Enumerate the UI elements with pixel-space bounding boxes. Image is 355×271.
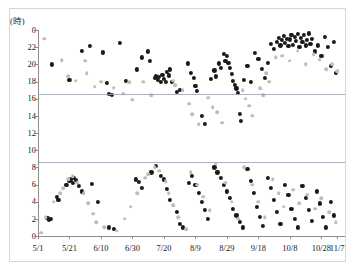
data-point bbox=[181, 88, 185, 92]
data-point bbox=[187, 102, 191, 106]
data-point bbox=[220, 121, 224, 125]
data-point bbox=[250, 183, 254, 187]
data-point bbox=[294, 39, 298, 43]
data-point bbox=[192, 76, 196, 80]
data-point bbox=[66, 75, 70, 79]
x-axis-tick-mark bbox=[195, 236, 196, 239]
x-axis-tick-mark bbox=[69, 236, 70, 239]
data-point bbox=[115, 229, 119, 233]
data-point bbox=[296, 225, 300, 229]
y-axis-tick-label: 10 bbox=[12, 146, 36, 155]
data-point bbox=[66, 178, 70, 182]
data-point bbox=[176, 215, 180, 219]
x-axis-tick-mark bbox=[101, 236, 102, 239]
data-point bbox=[167, 191, 171, 195]
data-point bbox=[118, 41, 122, 45]
x-axis-tick-mark bbox=[321, 236, 322, 239]
data-point bbox=[257, 200, 261, 204]
data-point bbox=[324, 68, 328, 72]
data-point bbox=[219, 176, 223, 180]
data-point bbox=[142, 80, 146, 84]
x-axis-tick-mark bbox=[290, 236, 291, 239]
x-axis-tick-label: 10/28 bbox=[312, 243, 331, 253]
x-axis-tick-mark bbox=[258, 236, 259, 239]
data-point bbox=[307, 208, 311, 212]
data-point bbox=[244, 97, 248, 101]
data-point bbox=[49, 217, 53, 221]
data-point bbox=[165, 187, 169, 191]
data-point bbox=[88, 44, 92, 48]
data-point bbox=[173, 83, 177, 87]
data-point bbox=[305, 193, 309, 197]
x-axis-tick-label: 11/7 bbox=[330, 243, 345, 253]
data-point bbox=[259, 67, 263, 71]
data-point bbox=[278, 222, 282, 226]
chart-figure: (時) 02220181614121086420 5/15/216/106/30… bbox=[0, 0, 355, 271]
y-axis-tick-mark bbox=[34, 133, 38, 134]
data-point bbox=[214, 74, 218, 78]
x-axis-tick-label: 6/10 bbox=[93, 243, 108, 253]
data-point bbox=[225, 189, 229, 193]
data-point bbox=[291, 42, 295, 46]
data-point bbox=[146, 49, 150, 53]
data-point bbox=[60, 58, 64, 62]
data-point bbox=[242, 166, 246, 170]
data-point bbox=[335, 69, 339, 73]
data-point bbox=[131, 98, 135, 102]
y-axis-tick-label: 18 bbox=[12, 77, 36, 86]
x-axis-tick-label: 7/20 bbox=[156, 243, 171, 253]
data-point bbox=[153, 166, 157, 170]
data-point bbox=[168, 198, 172, 202]
data-point bbox=[164, 179, 168, 183]
data-point bbox=[129, 205, 133, 209]
data-point bbox=[206, 96, 210, 100]
data-point bbox=[224, 181, 228, 185]
data-point bbox=[322, 35, 326, 39]
data-point bbox=[74, 79, 78, 83]
x-axis-tick-label: 6/30 bbox=[125, 243, 140, 253]
data-point bbox=[184, 227, 188, 231]
plot-area bbox=[38, 32, 345, 235]
data-point bbox=[236, 217, 240, 221]
data-point bbox=[327, 210, 331, 214]
data-point bbox=[209, 77, 213, 81]
x-axis-tick-label: 8/29 bbox=[219, 243, 234, 253]
data-point bbox=[195, 89, 199, 93]
data-point bbox=[321, 215, 325, 219]
data-point bbox=[293, 217, 297, 221]
data-point bbox=[296, 49, 300, 53]
data-point bbox=[137, 180, 141, 184]
data-point bbox=[112, 86, 116, 90]
y-axis-tick-label: 0 bbox=[12, 26, 36, 35]
data-point bbox=[247, 104, 251, 108]
data-point bbox=[212, 68, 216, 72]
data-point bbox=[286, 44, 290, 48]
data-point bbox=[226, 61, 230, 65]
data-point bbox=[189, 171, 193, 175]
data-point bbox=[239, 119, 243, 123]
data-point bbox=[140, 186, 144, 190]
y-axis-tick-label: 8 bbox=[12, 163, 36, 172]
data-point bbox=[332, 213, 336, 217]
data-point bbox=[252, 191, 256, 195]
y-axis-tick-label: 12 bbox=[12, 129, 36, 138]
data-point bbox=[264, 71, 268, 75]
x-axis-tick-mark bbox=[132, 236, 133, 239]
data-point bbox=[135, 191, 139, 195]
y-axis-tick-mark bbox=[34, 116, 38, 117]
y-axis-tick-label: 6 bbox=[12, 180, 36, 189]
data-point bbox=[91, 212, 95, 216]
reference-line bbox=[38, 162, 345, 163]
data-point bbox=[261, 224, 265, 228]
data-point bbox=[253, 51, 257, 55]
data-point bbox=[82, 191, 86, 195]
y-axis-tick-labels: 02220181614121086420 bbox=[8, 0, 36, 271]
data-point bbox=[326, 45, 330, 49]
y-axis-tick-mark bbox=[34, 167, 38, 168]
data-point bbox=[203, 121, 207, 125]
data-point bbox=[263, 76, 267, 80]
data-point bbox=[304, 43, 308, 47]
x-axis-tick-mark bbox=[227, 236, 228, 239]
data-point bbox=[174, 210, 178, 214]
data-point bbox=[105, 81, 109, 85]
